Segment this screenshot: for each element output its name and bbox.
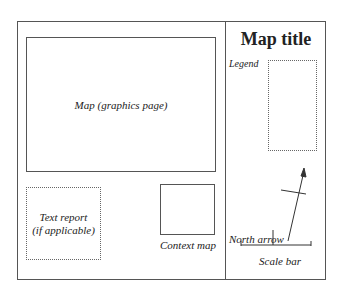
scale-bar-label: Scale bar bbox=[240, 255, 320, 267]
north-arrow-label: North arrow bbox=[229, 233, 284, 245]
north-arrow-icon bbox=[281, 168, 306, 241]
north-arrow-and-scale-bar-graphics bbox=[0, 0, 342, 292]
